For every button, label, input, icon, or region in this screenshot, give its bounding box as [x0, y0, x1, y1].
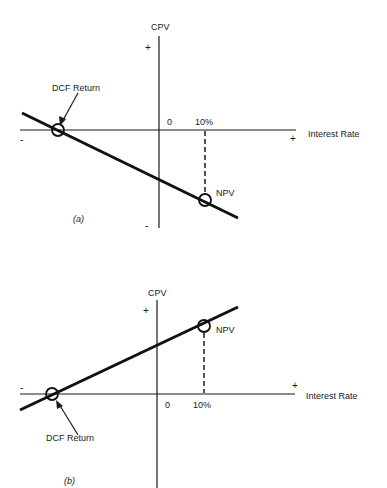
panel-b-npv-label: NPV — [216, 325, 235, 335]
panel-a-y-plus: + — [145, 42, 151, 53]
panel-a-cpv-label: CPV — [151, 22, 170, 32]
panel-b-ten-tick: 10% — [193, 400, 211, 410]
panel-a-x-title: Interest Rate — [308, 129, 360, 139]
panel-b-y-plus: + — [143, 305, 149, 316]
panel-b-cpv-label: CPV — [148, 288, 167, 298]
panel-a-dcf-label: DCF Return — [52, 83, 100, 93]
panel-b-dcf-arrow — [59, 404, 78, 435]
panel-b-dcf-label: DCF Return — [46, 433, 94, 443]
panel-a: CPV + - - + 0 10% Interest Rate DCF Retu… — [20, 22, 360, 231]
panel-a-caption: (a) — [73, 214, 84, 224]
panel-b-arrowhead-icon — [56, 400, 63, 409]
panel-a-x-plus: + — [290, 133, 296, 144]
panel-a-npv-label: NPV — [216, 188, 235, 198]
panel-b-x-plus: + — [292, 380, 298, 391]
panel-a-x-minus: - — [20, 134, 23, 145]
panel-a-y-minus: - — [145, 220, 148, 231]
panel-a-dcf-arrow — [62, 93, 78, 122]
panel-b: CPV + - + 0 10% Interest Rate DCF Return… — [20, 288, 358, 488]
panel-a-zero-tick: 0 — [167, 117, 172, 127]
panel-b-x-title: Interest Rate — [306, 391, 358, 401]
npv-dcf-figure: CPV + - - + 0 10% Interest Rate DCF Retu… — [0, 0, 387, 488]
panel-a-ten-tick: 10% — [195, 117, 213, 127]
panel-b-zero-tick: 0 — [165, 400, 170, 410]
panel-b-x-minus: - — [20, 382, 23, 393]
panel-b-caption: (b) — [64, 476, 75, 486]
